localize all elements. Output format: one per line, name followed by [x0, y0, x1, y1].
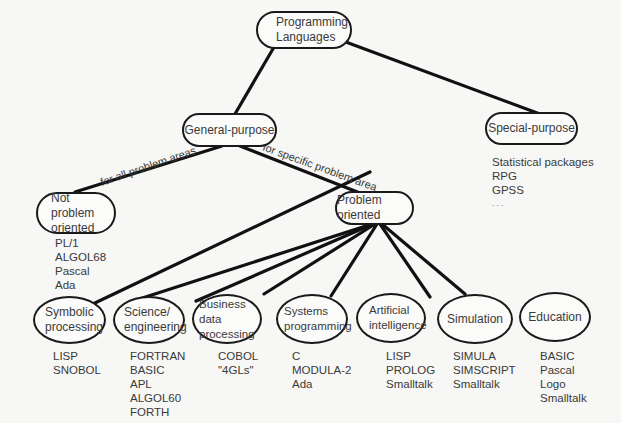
ai-examples: LISP PROLOG Smalltalk	[386, 349, 435, 391]
edge-label-for-all: for all problem areas	[99, 144, 198, 188]
node-symbolic-processing: Symbolic processing	[33, 296, 106, 344]
node-education: Education	[519, 292, 591, 342]
node-general-purpose: General-purpose	[182, 113, 277, 147]
education-examples: BASIC Pascal Logo Smalltalk	[540, 349, 587, 405]
science-examples: FORTRAN BASIC APL ALGOL60 FORTH	[130, 349, 185, 419]
systems-examples: C MODULA-2 Ada	[292, 349, 351, 391]
node-business-data-processing: Business data processing	[192, 294, 262, 344]
node-not-problem-oriented: Not problem oriented	[36, 192, 116, 234]
node-label: Problem oriented	[337, 193, 412, 223]
node-artificial-intelligence: Artificial intelligence	[356, 293, 426, 343]
node-problem-oriented: Problem oriented	[335, 191, 414, 225]
node-science-engineering: Science/ engineering	[113, 296, 185, 344]
symbolic-examples: LISP SNOBOL	[53, 349, 101, 377]
node-special-purpose: Special-purpose	[485, 112, 578, 145]
node-label: General-purpose	[184, 123, 274, 138]
special-purpose-examples: Statistical packages RPG GPSS . . .	[492, 155, 594, 211]
node-label: Special-purpose	[488, 121, 575, 136]
not-oriented-examples: PL/1 ALGOL68 Pascal Ada	[55, 236, 106, 292]
node-systems-programming: Systems programming	[276, 294, 348, 344]
node-simulation: Simulation	[437, 294, 513, 344]
business-examples: COBOL "4GLs"	[218, 349, 258, 377]
edge-label-for-specific: for specific problem area	[261, 141, 379, 194]
language-taxonomy-diagram: for all problem areas for specific probl…	[0, 0, 621, 423]
node-label: Programming Languages	[276, 15, 348, 45]
node-programming-languages: Programming Languages	[256, 11, 352, 49]
node-label: Not problem oriented	[51, 191, 114, 236]
simulation-examples: SIMULA SIMSCRIPT Smalltalk	[453, 349, 516, 391]
